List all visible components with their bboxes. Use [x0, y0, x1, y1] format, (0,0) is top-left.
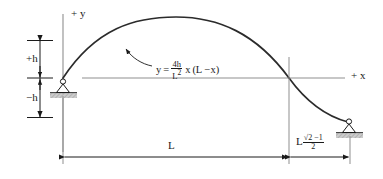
overhang-dimension-label: L√2 −12: [296, 134, 324, 152]
x-axis-label: + x: [351, 70, 365, 81]
engineering-diagram: [0, 0, 383, 179]
span-dimension-label: L: [168, 140, 175, 151]
equation-equals: =: [161, 64, 171, 75]
overhang-fraction: √2 −12: [303, 134, 324, 152]
overhang-prefix: L: [296, 135, 303, 147]
left-pin-support: [50, 79, 77, 98]
y-axis-label: + y: [71, 8, 85, 19]
right-pin-support: [336, 119, 363, 138]
equation-coef-denominator: L2: [171, 69, 182, 81]
equation-leader: [126, 49, 152, 66]
equation-coefficient-fraction: 4hL2: [171, 60, 182, 82]
equation-rhs-factor: (L −x): [190, 64, 219, 75]
figure-canvas: + y + x +h −h L y=4hL2x(L −x) L√2 −12: [0, 0, 383, 179]
overhang-denominator: 2: [303, 143, 324, 151]
height-negative-label: −h: [26, 92, 38, 103]
height-positive-label: +h: [26, 53, 38, 64]
curve-equation-label: y=4hL2x(L −x): [156, 60, 219, 82]
